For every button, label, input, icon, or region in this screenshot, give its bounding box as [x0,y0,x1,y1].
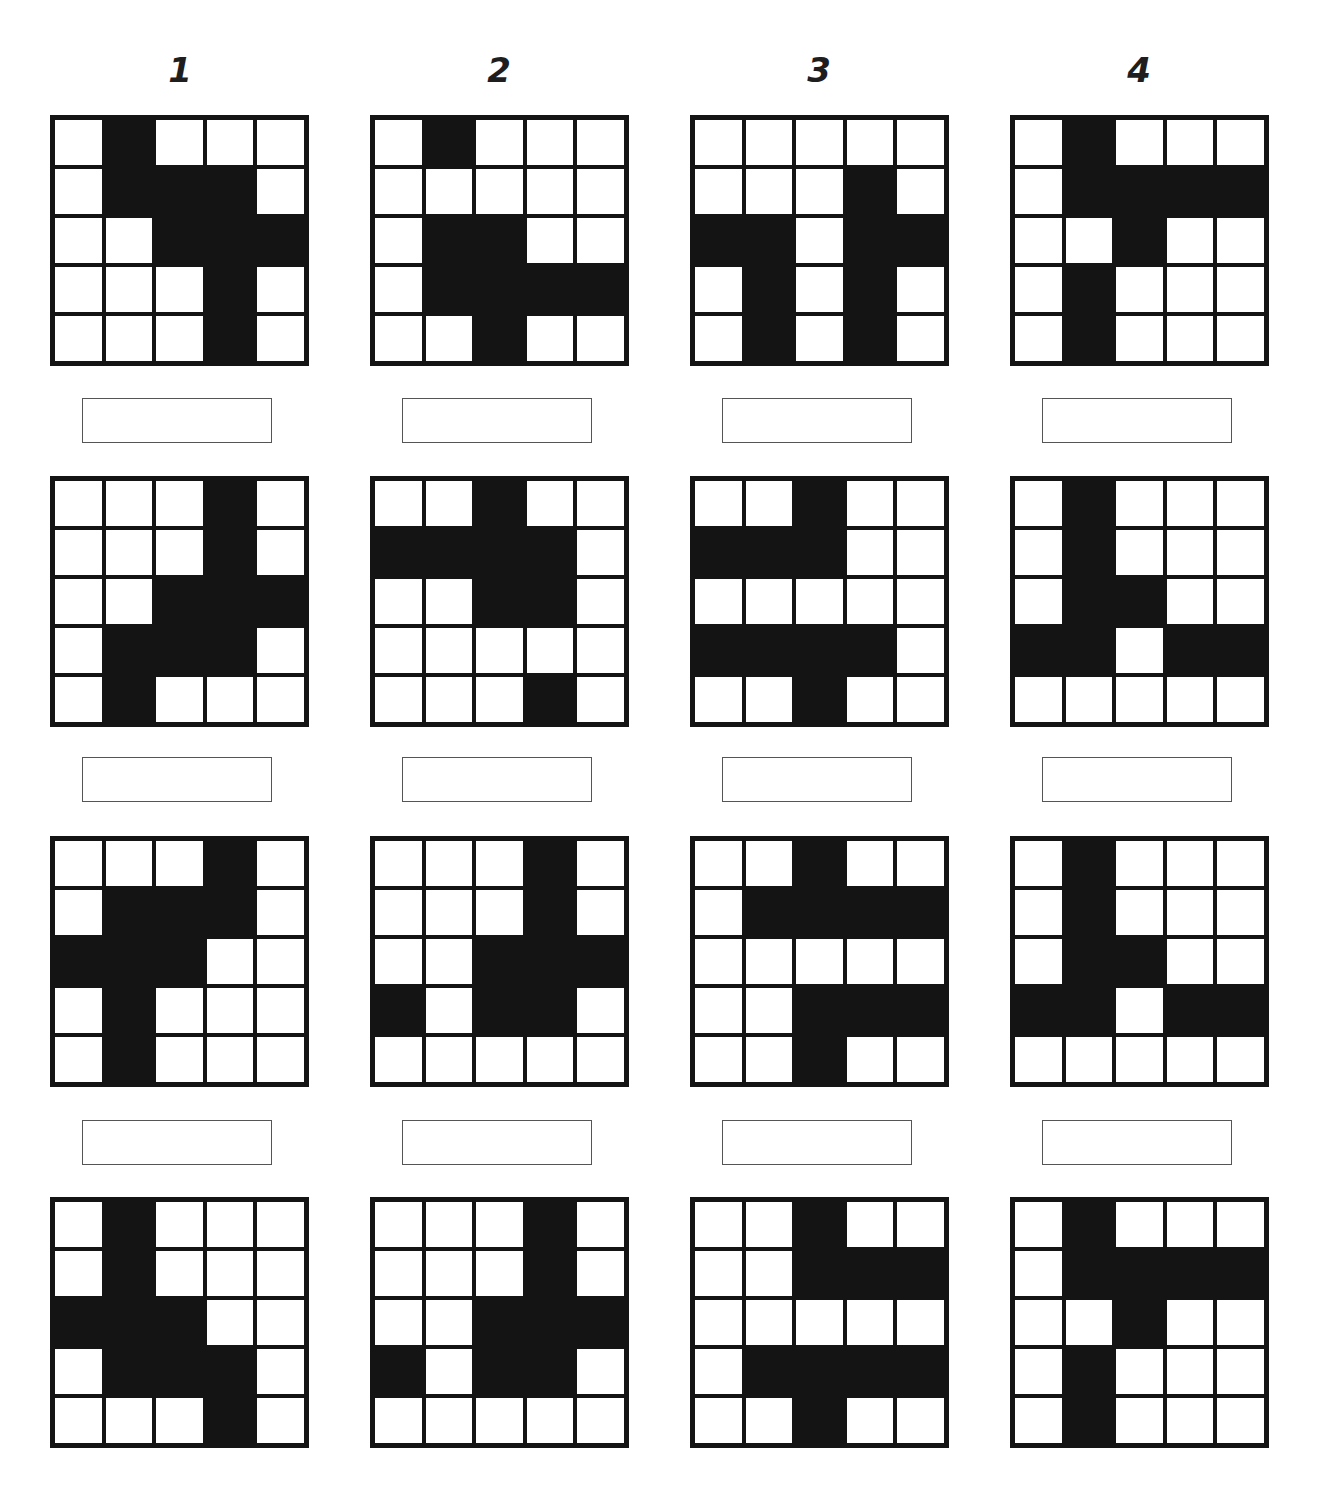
filled-cell [1066,890,1113,935]
empty-cell [257,841,304,886]
empty-cell [1116,890,1163,935]
empty-cell [426,1251,473,1296]
empty-cell [207,1202,254,1247]
empty-cell [1116,530,1163,575]
filled-cell [746,218,793,263]
answer-box-r3-c2[interactable] [402,1120,592,1165]
filled-cell [207,218,254,263]
answer-box-r1-c1[interactable] [82,398,272,443]
answer-box-r2-c3[interactable] [722,757,912,802]
empty-cell [1217,218,1264,263]
empty-cell [375,841,422,886]
filled-cell [796,890,843,935]
empty-cell [527,628,574,673]
empty-cell [1116,120,1163,165]
empty-cell [746,841,793,886]
empty-cell [1217,939,1264,984]
empty-cell [476,120,523,165]
empty-cell [1167,530,1214,575]
filled-cell [1116,579,1163,624]
empty-cell [375,169,422,214]
empty-cell [527,1398,574,1443]
filled-cell [897,1349,944,1394]
filled-cell [476,988,523,1033]
empty-cell [1217,1349,1264,1394]
answer-box-r1-c2[interactable] [402,398,592,443]
filled-cell [897,988,944,1033]
empty-cell [1066,1037,1113,1082]
empty-cell [476,1398,523,1443]
empty-cell [55,890,102,935]
empty-cell [1116,1349,1163,1394]
filled-cell [426,120,473,165]
empty-cell [106,530,153,575]
filled-cell [527,1202,574,1247]
answer-box-r3-c1[interactable] [82,1120,272,1165]
empty-cell [1217,267,1264,312]
empty-cell [1015,169,1062,214]
empty-cell [796,579,843,624]
pattern-grid-r4-c1 [50,1197,309,1448]
empty-cell [55,1349,102,1394]
empty-cell [55,481,102,526]
answer-box-r1-c3[interactable] [722,398,912,443]
empty-cell [695,841,742,886]
filled-cell [847,988,894,1033]
filled-cell [1217,1251,1264,1296]
empty-cell [1015,1251,1062,1296]
empty-cell [257,481,304,526]
empty-cell [257,169,304,214]
empty-cell [527,120,574,165]
empty-cell [207,677,254,722]
empty-cell [746,1251,793,1296]
empty-cell [375,1202,422,1247]
filled-cell [527,988,574,1033]
answer-box-r2-c4[interactable] [1042,757,1232,802]
column-label-3: 3 [789,50,849,90]
empty-cell [897,267,944,312]
answer-box-r2-c1[interactable] [82,757,272,802]
filled-cell [1066,481,1113,526]
filled-cell [106,890,153,935]
answer-box-r2-c2[interactable] [402,757,592,802]
filled-cell [375,1349,422,1394]
empty-cell [577,1349,624,1394]
empty-cell [55,120,102,165]
empty-cell [1217,530,1264,575]
empty-cell [1217,1202,1264,1247]
answer-box-r3-c4[interactable] [1042,1120,1232,1165]
filled-cell [1167,1251,1214,1296]
filled-cell [156,169,203,214]
empty-cell [796,1300,843,1345]
empty-cell [577,1202,624,1247]
empty-cell [1116,628,1163,673]
empty-cell [897,1037,944,1082]
empty-cell [426,481,473,526]
filled-cell [156,218,203,263]
answer-box-r1-c4[interactable] [1042,398,1232,443]
filled-cell [55,939,102,984]
filled-cell [746,890,793,935]
empty-cell [257,120,304,165]
filled-cell [476,530,523,575]
empty-cell [476,841,523,886]
pattern-grid-r2-c3 [690,476,949,727]
empty-cell [257,1202,304,1247]
empty-cell [476,628,523,673]
empty-cell [55,1202,102,1247]
filled-cell [796,481,843,526]
filled-cell [847,316,894,361]
answer-box-r3-c3[interactable] [722,1120,912,1165]
empty-cell [1116,677,1163,722]
empty-cell [1066,1300,1113,1345]
empty-cell [1167,1398,1214,1443]
empty-cell [897,677,944,722]
filled-cell [476,1349,523,1394]
filled-cell [207,1398,254,1443]
empty-cell [847,481,894,526]
empty-cell [796,316,843,361]
empty-cell [897,481,944,526]
empty-cell [746,169,793,214]
empty-cell [375,316,422,361]
filled-cell [746,628,793,673]
